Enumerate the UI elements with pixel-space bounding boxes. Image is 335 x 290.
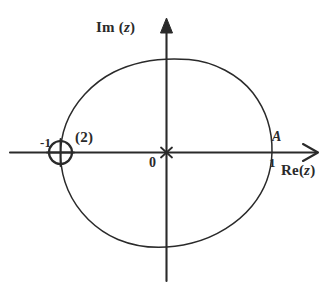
real-axis-tick-minus-one: -1 <box>40 136 51 149</box>
imaginary-axis-label-suffix: ) <box>130 19 135 35</box>
real-axis-label: Re(z) <box>281 163 315 178</box>
complex-plane-figure: Im (z) Re(z) A 1 0 -1 (2) <box>0 0 335 290</box>
imaginary-axis-label-prefix: Im ( <box>96 19 124 35</box>
imaginary-axis-label: Im (z) <box>96 20 135 35</box>
real-axis-tick-one: 1 <box>269 156 276 169</box>
pole-multiplicity-label: (2) <box>75 130 93 145</box>
point-a-label: A <box>272 130 282 144</box>
imaginary-axis-arrowhead <box>161 18 173 33</box>
origin-label: 0 <box>149 156 156 170</box>
real-axis-label-prefix: Re( <box>281 162 304 178</box>
real-axis-label-suffix: ) <box>310 162 315 178</box>
